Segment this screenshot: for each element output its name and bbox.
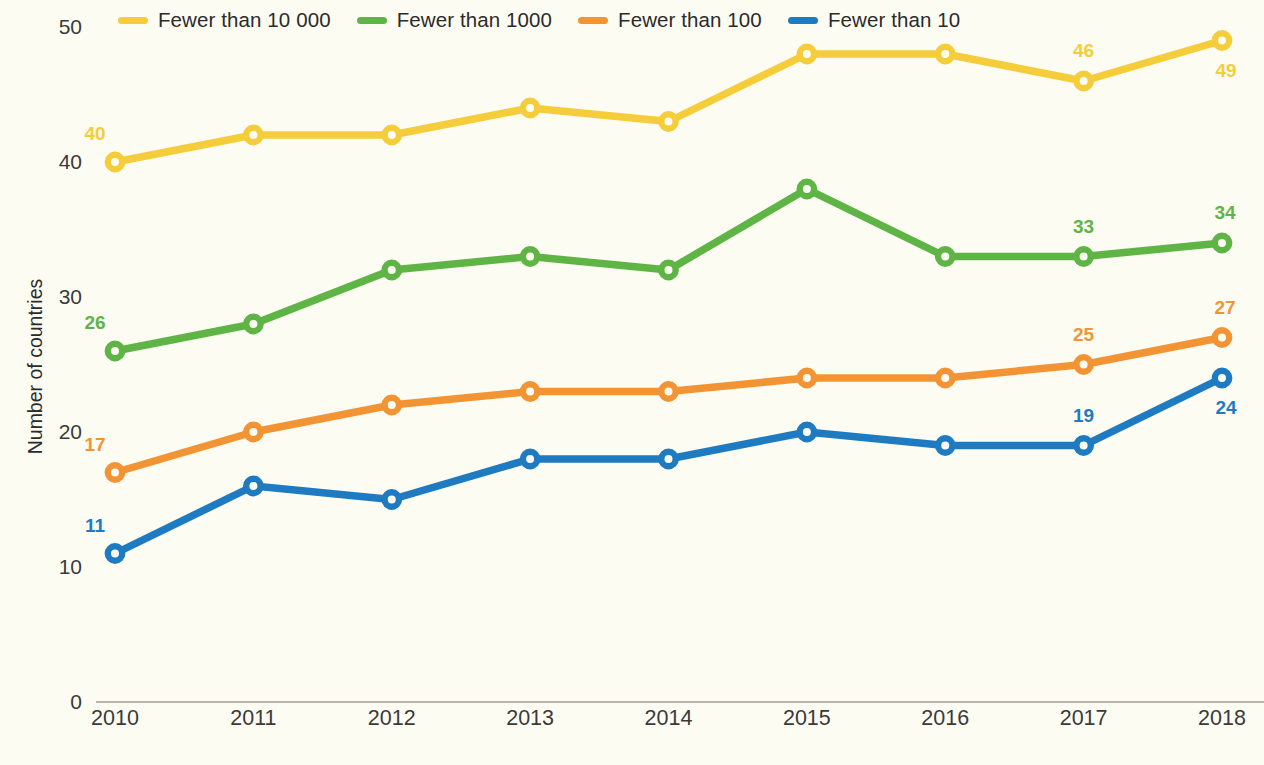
data-point-value-label: 49: [1215, 60, 1236, 82]
data-point-value-label: 46: [1073, 40, 1094, 62]
data-point-value-label: 27: [1214, 297, 1235, 319]
data-point-value-label: 40: [84, 123, 105, 145]
data-point-value-label: 26: [84, 312, 105, 334]
data-point-value-label: 34: [1214, 202, 1235, 224]
data-point-value-label: 24: [1215, 397, 1236, 419]
point-label-layer: 404649263334172527111924: [0, 0, 1264, 765]
data-point-value-label: 33: [1073, 216, 1094, 238]
data-point-value-label: 25: [1073, 324, 1094, 346]
data-point-value-label: 19: [1073, 405, 1094, 427]
data-point-value-label: 11: [85, 515, 105, 537]
data-point-value-label: 17: [84, 434, 105, 456]
line-chart: Fewer than 10 000Fewer than 1000Fewer th…: [0, 0, 1264, 765]
